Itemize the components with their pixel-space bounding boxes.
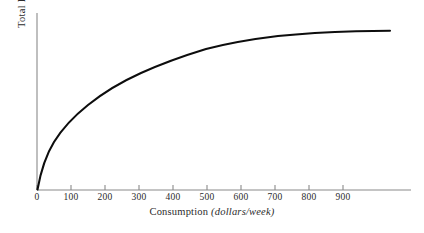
x-axis-title: Consumption (dollars/week): [0, 206, 424, 217]
x-tick-label-100: 100: [64, 192, 79, 202]
x-tick-label-0: 0: [35, 192, 40, 202]
x-tick-label-400: 400: [166, 192, 181, 202]
y-axis-title: Total Pleasure per Week: [16, 0, 27, 28]
x-axis-title-main: Consumption: [149, 206, 211, 217]
x-tick-label-600: 600: [234, 192, 249, 202]
chart-figure: 0 100 200 300 400 500 600 700 800 900 Co…: [0, 0, 424, 233]
x-tick-label-800: 800: [302, 192, 317, 202]
total-pleasure-curve: [38, 31, 391, 190]
x-tick-label-700: 700: [268, 192, 283, 202]
x-tick-label-200: 200: [98, 192, 113, 202]
x-tick-label-900: 900: [336, 192, 351, 202]
x-tick-label-300: 300: [132, 192, 147, 202]
x-axis-tick-marks: [37, 185, 343, 190]
x-tick-label-500: 500: [200, 192, 215, 202]
x-axis-title-unit: (dollars/week): [211, 206, 274, 217]
